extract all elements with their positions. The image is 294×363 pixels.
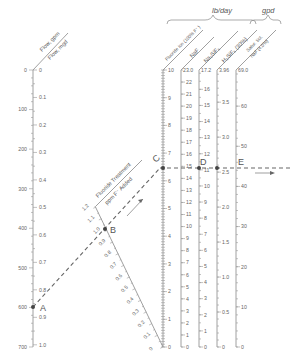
treatment-tick-label: 1.1 [86,214,95,223]
scale-tick-label: 9 [204,199,207,205]
scale-tick-label: 6 [186,272,189,278]
treatment-tick-label: 0.7 [108,261,117,270]
scale-tick-label: 12 [186,199,192,205]
scale-tick-label: 0 [241,344,244,350]
h2sif6-label: H₂SiF₆ (30%) [220,36,248,64]
flow-axis: Flow, gpm Flow, mgd 01002003004005006007… [18,30,68,350]
scale-tick-label: 4 [168,233,171,239]
arrow-head-2 [270,171,275,175]
gpm-tick-label: 100 [18,106,27,112]
scale-tick-label: 1.5 [222,239,229,245]
scale-tick-label: 9 [186,235,189,241]
scale-tick-label: 60 [241,103,247,109]
mgd-tick-label: 0.6 [39,232,46,238]
label-e: E [238,157,244,167]
scale-tick-label: 6 [204,247,207,253]
label-a: A [40,303,46,313]
label-b: B [110,225,116,235]
scale-tick-label: 22 [186,79,192,85]
scale-tick-label: 2 [186,320,189,326]
unit-gpd: gpd [262,6,275,15]
scale-tick-label: 4 [204,279,207,285]
scale-tick-label: 21 [186,91,192,97]
scale-tick-label: 0 [186,344,189,350]
scale-tick-label: 10 [168,67,174,73]
h2sif6-top: 3.96 [219,67,229,73]
right-scales: Fluoride Ion (100% F⁻) NaF Na₂SiF₆ H₂SiF… [161,24,276,349]
gpm-tick-label: 300 [18,186,27,192]
treatment-tick-label: 0.2 [136,319,145,328]
scale-tick-label: 15 [204,102,210,108]
scale-tick-label: 0 [204,344,207,350]
point-e [215,166,219,170]
gpm-tick-label: 700 [18,344,27,350]
mgd-tick-label: 0.1 [39,94,46,100]
scale-tick-label: 2.0 [222,204,229,210]
treatment-tick-label: 0 [147,345,153,351]
mgd-tick-label: 0.9 [39,314,46,320]
example-path: A B C D E [31,152,290,313]
nomograph: lb/day gpd Flow, gpm Flow, mgd 010020030… [0,0,294,363]
mgd-tick-label: 1.0 [39,342,46,348]
scale-tick-label: 3 [204,295,207,301]
treatment-tick-label: 0.8 [103,249,112,258]
treatment-tick [132,289,135,290]
treatment-tick-label: 0.5 [120,284,129,293]
unit-lb-day: lb/day [212,6,233,15]
naf-top: 23.0 [183,67,193,73]
scale-tick-label: 30 [241,223,247,229]
scale-tick-label: 7 [204,231,207,237]
scale-tick-label: 10 [186,223,192,229]
lb-day-brace [167,15,256,24]
scale-tick-label: 1.0 [222,274,229,280]
scale-tick-label: 10 [204,183,210,189]
scale-tick-label: 2.5 [222,169,229,175]
scale-tick-label: 2 [168,288,171,294]
mgd-tick-label: 0.8 [39,287,46,293]
scale-tick-label: 8 [204,215,207,221]
treatment-tick-label: 1.2 [80,202,89,211]
scale-tick-label: 14 [186,175,192,181]
treatment-tick [138,300,141,301]
gpm-tick-label: 0 [24,67,27,73]
scale-tick-label: 4 [186,296,189,302]
gpm-tick-label: 600 [18,304,27,310]
scale-tick-label: 12 [204,151,210,157]
treatment-tick-label: 0.9 [97,237,106,246]
scale-tick-label: 3 [168,261,171,267]
treatment-ticks: 00.10.20.30.40.50.60.70.80.91.01.11.2 [80,202,163,351]
scale-tick-label: 0.5 [222,309,229,315]
gpm-tick-label: 200 [18,146,27,152]
scale-tick-label: 1 [204,328,207,334]
treatment-header-line [96,160,142,206]
right-ticks: 0123456789100123456789101112131415161718… [161,67,247,350]
scale-tick-label: 7 [186,259,189,265]
scale-tick-label: 8 [168,122,171,128]
mgd-tick-label: 0.5 [39,204,46,210]
scale-tick-label: 0 [168,344,171,350]
mgd-tick-label: 0.4 [39,177,46,183]
scale-tick-label: 6 [168,178,171,184]
arrow-head-1 [138,199,143,203]
dashed-line-a-c [33,168,160,307]
treatment-tick [159,341,160,342]
scale-tick-label: 16 [186,151,192,157]
scale-tick-label: 3.0 [222,134,229,140]
scale-tick-label: 1 [168,316,171,322]
treatment-axis: Fluoride Treatment ppm F⁻ Added 00.10.20… [80,160,163,352]
scale-tick-label: 5 [204,263,207,269]
point-a [31,305,35,309]
treatment-tick [127,277,130,278]
scale-tick-label: 1 [186,332,189,338]
scale-tick-label: 7 [168,150,171,156]
point-c [161,166,165,170]
gpd-brace [250,15,281,24]
na2sif6-label: Na₂SiF₆ [202,45,220,63]
treatment-tick-label: 0.4 [125,296,134,305]
scale-tick-label: 5 [186,284,189,290]
scale-tick-label: 3 [186,308,189,314]
scale-tick-label: 11 [186,211,191,217]
units-header: lb/day gpd [167,6,281,24]
gpm-tick-label: 400 [18,225,27,231]
treatment-tick [155,335,158,336]
